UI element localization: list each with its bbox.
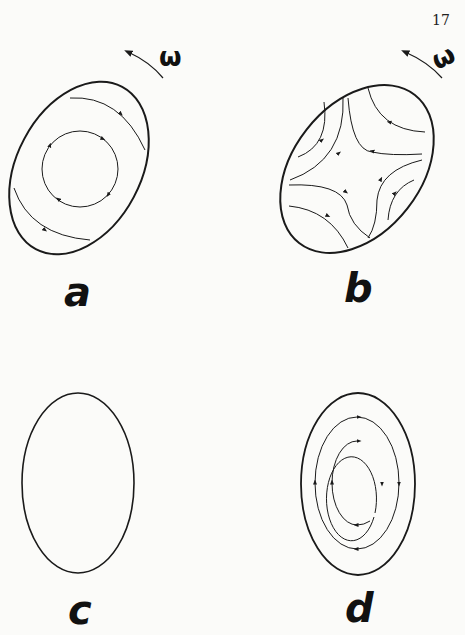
container-boundary	[249, 56, 465, 283]
streamline-inner	[326, 441, 376, 541]
flow-arrow-icon	[379, 179, 381, 183]
panel-d	[301, 393, 415, 575]
streamline-outer-bottom	[14, 188, 90, 240]
omega-label-a: ω	[159, 44, 182, 70]
panel-label-b: b	[344, 268, 373, 308]
panel-label-d: d	[345, 588, 374, 628]
flow-arrow-icon	[335, 153, 339, 156]
panel-c	[22, 393, 134, 573]
panel-label-c: c	[68, 590, 92, 630]
streamline-middle	[315, 417, 399, 549]
streamline-inner	[42, 131, 118, 207]
rotation-arrow-icon	[128, 52, 163, 78]
panel-a	[0, 52, 177, 278]
flow-arrow-icon	[342, 189, 346, 192]
panel-b	[249, 52, 465, 282]
strain-streamlines	[289, 88, 425, 248]
flow-arrow-icon	[392, 193, 395, 196]
figure-page: 17	[0, 0, 465, 635]
figure-canvas	[0, 0, 465, 635]
flow-arrow-icon	[324, 214, 328, 216]
container-boundary	[301, 393, 415, 575]
container-boundary	[22, 393, 134, 573]
flow-arrow-icon	[41, 227, 45, 230]
container-boundary	[0, 58, 177, 279]
panel-label-a: a	[64, 272, 91, 312]
